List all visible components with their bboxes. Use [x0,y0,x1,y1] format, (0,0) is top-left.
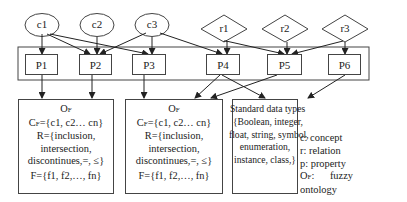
property-box-p4: P4 [206,54,240,75]
relation-label-r2: r2 [273,23,297,34]
property-label: P6 [339,59,351,71]
ontology-relations-3: discontinues,=, ≤} [126,155,222,168]
relation-label-r1: r1 [212,23,236,34]
legend-property: p: property [300,158,353,171]
standard-data-types-box: Standard data types {Boolean, integer, f… [232,99,298,194]
ontology-concepts: CF={c1, c2… cn} [126,117,222,131]
legend-relation: r: relation [300,145,353,158]
property-label: P2 [90,59,102,71]
ontology-relations-2: intersection, [126,143,222,156]
ontology-relations-1: R={inclusion, [126,130,222,143]
properties-container [18,47,369,80]
concept-label-c3: c3 [140,19,164,30]
property-box-p1: P1 [25,54,58,75]
ontology-functions: F={f1, f2,…, fn} [126,170,222,183]
property-box-p2: P2 [79,54,112,75]
ontology-relations-1: R={inclusion, [19,130,113,143]
ontology-relations-2: intersection, [19,143,113,156]
fuzzy-ontology-box-2: OF CF={c1, c2… cn} R={inclusion, interse… [125,99,223,194]
datatypes-line: float, string, symbol, [229,129,301,142]
ontology-relations-3: discontinues,=, ≤} [19,155,113,168]
property-box-p3: P3 [132,54,166,75]
ontology-title: OF [126,103,222,117]
property-label: P1 [36,59,48,71]
property-label: P5 [279,59,291,71]
legend-ontology-2: ontology [300,184,353,197]
property-label: P4 [217,59,229,71]
property-box-p5: P5 [267,54,302,75]
ontology-title: OF [19,103,113,117]
datatypes-title: Standard data types [230,103,300,116]
property-box-p6: P6 [328,54,361,75]
ontology-functions: F={f1, f2,…, fn} [19,170,113,183]
ontology-concepts: CF={c1, c2… cn} [19,117,113,131]
legend-concept: c: concept [300,132,353,145]
datatypes-line: instance, class,} [233,154,297,167]
relation-label-r3: r3 [333,23,357,34]
datatypes-line: {Boolean, integer, [233,116,297,129]
fuzzy-ontology-box-1: OF CF={c1, c2… cn} R={inclusion, interse… [18,99,114,194]
concept-label-c1: c1 [30,19,54,30]
legend-ontology: OF: fuzzy [300,170,353,184]
concept-label-c2: c2 [85,19,109,30]
legend: c: concept r: relation p: property OF: f… [300,132,353,197]
property-label: P3 [143,59,155,71]
datatypes-line: enumeration, [233,141,297,154]
